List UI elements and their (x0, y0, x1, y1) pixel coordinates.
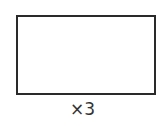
rectangle-shape (16, 15, 156, 95)
multiplier-label: ×3 (0, 99, 157, 119)
